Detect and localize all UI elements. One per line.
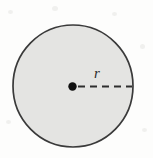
radius-label: r bbox=[94, 66, 100, 81]
circle-radius-figure: r bbox=[0, 0, 153, 158]
center-point bbox=[68, 82, 76, 90]
diagram-canvas bbox=[0, 0, 153, 158]
